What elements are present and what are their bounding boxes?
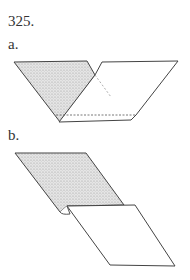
step-b-diagram	[15, 153, 175, 266]
shaded-panel	[15, 153, 124, 212]
fold-diagram	[0, 0, 190, 280]
step-a-diagram	[14, 61, 178, 122]
white-panel	[67, 205, 175, 266]
